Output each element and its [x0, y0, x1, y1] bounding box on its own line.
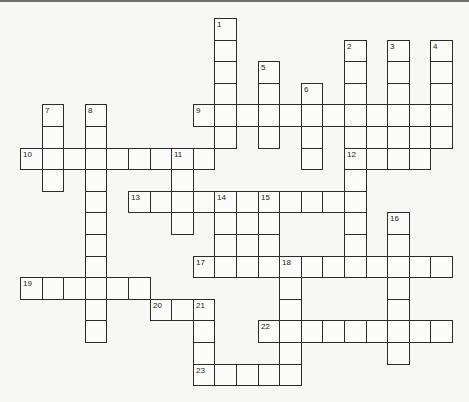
crossword-cell[interactable]: 12	[344, 148, 367, 170]
crossword-cell[interactable]: 18	[279, 256, 302, 278]
crossword-cell[interactable]	[258, 83, 280, 105]
crossword-cell[interactable]	[214, 234, 237, 257]
crossword-cell[interactable]	[344, 83, 367, 105]
crossword-cell[interactable]: 3	[387, 40, 410, 62]
crossword-cell[interactable]	[85, 256, 107, 278]
crossword-cell[interactable]	[366, 320, 388, 343]
crossword-cell[interactable]	[42, 169, 64, 192]
crossword-cell[interactable]: 4	[430, 40, 453, 62]
crossword-cell[interactable]: 11	[171, 148, 194, 170]
crossword-cell[interactable]	[279, 104, 302, 127]
crossword-cell[interactable]	[193, 191, 215, 213]
crossword-cell[interactable]: 1	[214, 18, 237, 41]
crossword-cell[interactable]	[214, 212, 237, 235]
crossword-cell[interactable]	[279, 299, 302, 321]
crossword-cell[interactable]	[387, 61, 410, 84]
crossword-cell[interactable]	[171, 169, 194, 192]
crossword-cell[interactable]	[387, 148, 410, 170]
crossword-cell[interactable]: 2	[344, 40, 367, 62]
crossword-cell[interactable]	[85, 234, 107, 257]
crossword-cell[interactable]	[279, 191, 302, 213]
crossword-cell[interactable]: 15	[258, 191, 280, 213]
crossword-cell[interactable]	[258, 234, 280, 257]
crossword-cell[interactable]	[344, 212, 367, 235]
crossword-cell[interactable]	[409, 126, 431, 149]
crossword-cell[interactable]	[106, 277, 129, 300]
crossword-cell[interactable]: 16	[387, 212, 410, 235]
crossword-cell[interactable]	[85, 191, 107, 213]
crossword-cell[interactable]	[236, 234, 259, 257]
crossword-cell[interactable]	[214, 40, 237, 62]
crossword-cell[interactable]	[387, 126, 410, 149]
crossword-cell[interactable]	[387, 277, 410, 300]
crossword-cell[interactable]	[150, 191, 172, 213]
crossword-cell[interactable]	[430, 83, 453, 105]
crossword-cell[interactable]	[301, 148, 323, 170]
crossword-cell[interactable]	[322, 320, 345, 343]
crossword-cell[interactable]	[409, 148, 431, 170]
crossword-cell[interactable]	[236, 104, 259, 127]
crossword-cell[interactable]	[279, 277, 302, 300]
crossword-cell[interactable]	[214, 126, 237, 149]
crossword-cell[interactable]	[236, 191, 259, 213]
crossword-cell[interactable]	[85, 320, 107, 343]
crossword-cell[interactable]	[366, 126, 388, 149]
crossword-cell[interactable]: 19	[20, 277, 43, 300]
crossword-cell[interactable]	[214, 364, 237, 386]
crossword-cell[interactable]	[193, 320, 215, 343]
crossword-cell[interactable]	[387, 256, 410, 278]
crossword-cell[interactable]	[236, 256, 259, 278]
crossword-cell[interactable]	[279, 342, 302, 365]
crossword-cell[interactable]: 20	[150, 299, 172, 321]
crossword-cell[interactable]	[85, 212, 107, 235]
crossword-cell[interactable]	[63, 148, 86, 170]
crossword-cell[interactable]	[409, 256, 431, 278]
crossword-cell[interactable]	[301, 256, 323, 278]
crossword-cell[interactable]	[258, 104, 280, 127]
crossword-cell[interactable]	[344, 256, 367, 278]
crossword-cell[interactable]: 5	[258, 61, 280, 84]
crossword-cell[interactable]	[430, 320, 453, 343]
crossword-cell[interactable]	[344, 234, 367, 257]
crossword-cell[interactable]	[366, 104, 388, 127]
crossword-cell[interactable]	[150, 148, 172, 170]
crossword-cell[interactable]: 21	[193, 299, 215, 321]
crossword-cell[interactable]	[214, 256, 237, 278]
crossword-cell[interactable]	[128, 277, 151, 300]
crossword-cell[interactable]: 9	[193, 104, 215, 127]
crossword-cell[interactable]	[301, 104, 323, 127]
crossword-cell[interactable]	[85, 169, 107, 192]
crossword-cell[interactable]	[42, 148, 64, 170]
crossword-cell[interactable]	[322, 104, 345, 127]
crossword-cell[interactable]	[301, 126, 323, 149]
crossword-cell[interactable]	[387, 83, 410, 105]
crossword-cell[interactable]	[128, 148, 151, 170]
crossword-cell[interactable]	[430, 104, 453, 127]
crossword-cell[interactable]	[366, 256, 388, 278]
crossword-cell[interactable]	[85, 148, 107, 170]
crossword-cell[interactable]	[279, 320, 302, 343]
crossword-cell[interactable]	[344, 169, 367, 192]
crossword-cell[interactable]	[42, 277, 64, 300]
crossword-cell[interactable]	[214, 61, 237, 84]
crossword-cell[interactable]: 17	[193, 256, 215, 278]
crossword-cell[interactable]	[85, 299, 107, 321]
crossword-cell[interactable]	[85, 126, 107, 149]
crossword-cell[interactable]	[387, 299, 410, 321]
crossword-cell[interactable]	[193, 148, 215, 170]
crossword-cell[interactable]	[366, 148, 388, 170]
crossword-cell[interactable]	[279, 364, 302, 386]
crossword-cell[interactable]	[258, 126, 280, 149]
crossword-cell[interactable]: 14	[214, 191, 237, 213]
crossword-cell[interactable]	[430, 126, 453, 149]
crossword-cell[interactable]	[387, 104, 410, 127]
crossword-cell[interactable]	[106, 148, 129, 170]
crossword-cell[interactable]	[258, 364, 280, 386]
crossword-cell[interactable]	[430, 61, 453, 84]
crossword-cell[interactable]	[236, 212, 259, 235]
crossword-cell[interactable]	[63, 277, 86, 300]
crossword-cell[interactable]	[409, 320, 431, 343]
crossword-cell[interactable]	[214, 104, 237, 127]
crossword-cell[interactable]	[42, 126, 64, 149]
crossword-cell[interactable]: 22	[258, 320, 280, 343]
